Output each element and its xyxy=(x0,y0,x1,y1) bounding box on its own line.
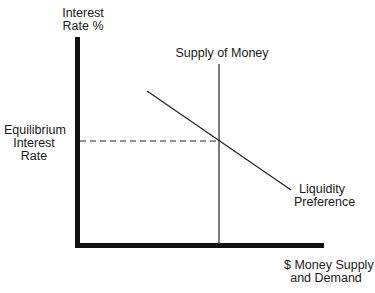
equilibrium-label: Equilibrium Interest Rate xyxy=(4,124,64,163)
liquidity-label-line2: Preference xyxy=(294,196,350,209)
y-axis-label: Interest Rate % xyxy=(58,7,108,33)
y-axis-label-line2: Rate % xyxy=(58,20,108,33)
x-axis xyxy=(75,243,324,248)
y-axis xyxy=(75,37,80,248)
x-axis-label-line2: and Demand xyxy=(284,272,368,285)
x-axis-label: $ Money Supply and Demand xyxy=(284,259,368,285)
liquidity-preference-label: Liquidity Preference xyxy=(294,183,350,209)
equilibrium-label-line3: Rate xyxy=(4,150,64,163)
supply-label: Supply of Money xyxy=(172,47,272,60)
